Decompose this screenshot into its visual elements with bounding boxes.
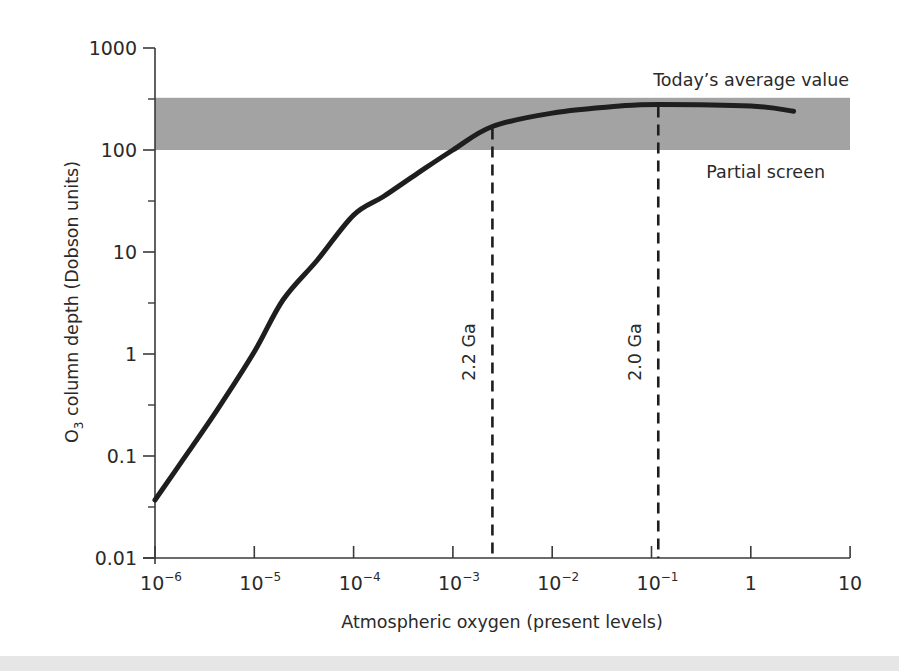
x-tick-label: 10−4 [339, 570, 381, 594]
ozone-curve [155, 104, 794, 500]
era-markers: 2.2 Ga2.0 Ga [459, 106, 658, 558]
x-tick-label: 10 [838, 572, 862, 594]
y-tick-label: 1000 [89, 37, 137, 59]
y-tick-label: 10 [113, 241, 137, 263]
y-axis-title: O3 column depth (Dobson units) [62, 161, 86, 443]
x-tick-label: 10−3 [438, 570, 480, 594]
ozone-oxygen-chart: 10001001010.10.01 10−610−510−410−310−210… [0, 0, 899, 671]
era-label: 2.0 Ga [625, 323, 645, 381]
x-tick-label: 10−1 [637, 570, 679, 594]
era-label: 2.2 Ga [459, 323, 479, 381]
x-tick-label: 10−2 [537, 570, 579, 594]
x-tick-label: 10−5 [239, 570, 281, 594]
y-axis: 10001001010.10.01 [89, 37, 155, 569]
x-axis-title: Atmospheric oxygen (present levels) [341, 612, 663, 632]
band-bottom-label: Partial screen [706, 162, 825, 182]
y-tick-label: 1 [125, 343, 137, 365]
bottom-strip [0, 656, 899, 671]
y-tick-label: 100 [101, 139, 137, 161]
x-tick-label: 10−6 [140, 570, 182, 594]
y-tick-label: 0.01 [95, 547, 137, 569]
band-top-label: Today’s average value [652, 70, 849, 90]
x-tick-label: 1 [745, 572, 757, 594]
y-tick-label: 0.1 [107, 445, 137, 467]
x-axis: 10−610−510−410−310−210−1110 [140, 546, 862, 594]
